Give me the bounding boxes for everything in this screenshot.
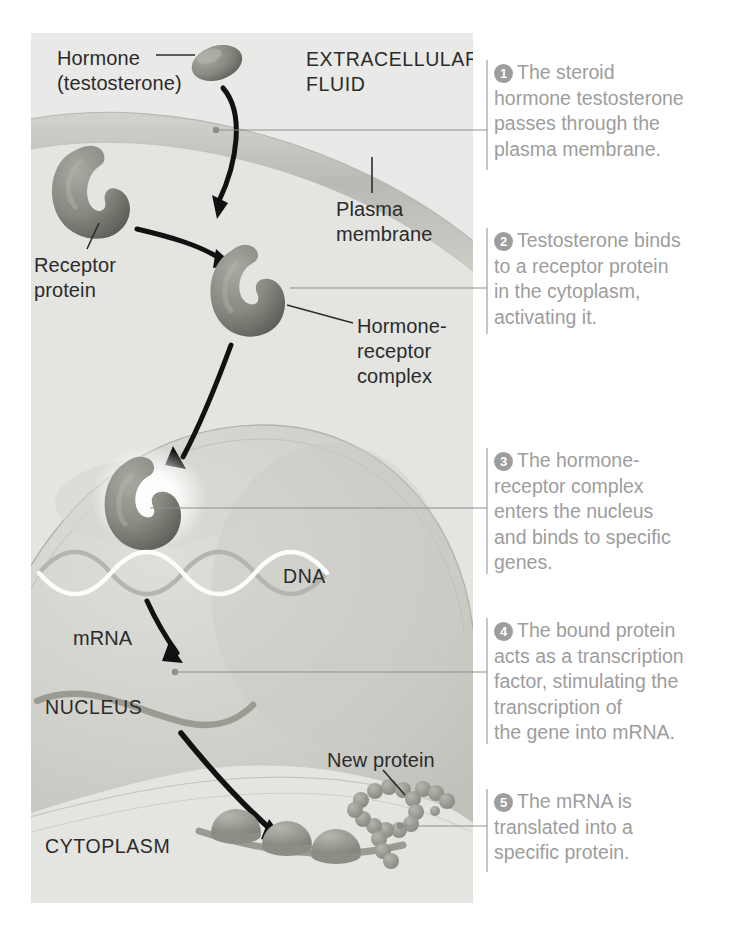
label-hormone-receptor-complex: Hormone- receptor complex bbox=[357, 314, 447, 389]
step-number-badge: 2 bbox=[494, 232, 513, 251]
step-text: The hormone- receptor complex enters the… bbox=[494, 449, 671, 573]
callout-step-3: 3The hormone- receptor complex enters th… bbox=[494, 448, 746, 576]
step-number-badge: 4 bbox=[494, 622, 513, 641]
step-number-badge: 1 bbox=[494, 64, 513, 83]
label-mrna: mRNA bbox=[73, 626, 132, 651]
step-number-badge: 3 bbox=[494, 452, 513, 471]
step-text: The mRNA is translated into a specific p… bbox=[494, 790, 633, 863]
callout-step-4: 4The bound protein acts as a transcripti… bbox=[494, 618, 746, 746]
label-plasma-membrane: Plasma membrane bbox=[336, 197, 432, 247]
callout-step-2: 2Testosterone binds to a receptor protei… bbox=[494, 228, 746, 330]
cell-illustration-panel: Hormone (testosterone) EXTRACELLULAR FLU… bbox=[31, 33, 473, 903]
step-number-badge: 5 bbox=[494, 793, 513, 812]
label-extracellular-fluid: EXTRACELLULAR FLUID bbox=[306, 47, 473, 97]
steroid-hormone-signaling-figure: Hormone (testosterone) EXTRACELLULAR FLU… bbox=[0, 0, 751, 925]
label-dna: DNA bbox=[283, 564, 326, 589]
step-text: Testosterone binds to a receptor protein… bbox=[494, 229, 681, 328]
label-hormone: Hormone (testosterone) bbox=[57, 46, 182, 96]
callout-step-5: 5The mRNA is translated into a specific … bbox=[494, 789, 746, 866]
label-new-protein: New protein bbox=[327, 748, 435, 773]
label-nucleus: NUCLEUS bbox=[45, 695, 142, 720]
label-cytoplasm: CYTOPLASM bbox=[45, 834, 170, 859]
label-receptor-protein: Receptor protein bbox=[34, 253, 116, 303]
step-text: The bound protein acts as a transcriptio… bbox=[494, 619, 684, 743]
step-text: The steroid hormone testosterone passes … bbox=[494, 61, 684, 160]
callout-step-1: 1The steroid hormone testosterone passes… bbox=[494, 60, 746, 162]
